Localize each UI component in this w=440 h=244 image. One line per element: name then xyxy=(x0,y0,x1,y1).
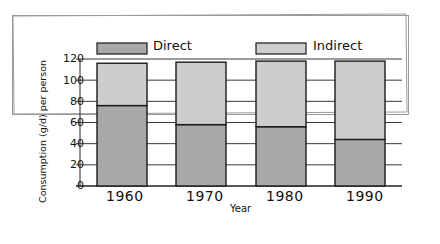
y-tick-120: 120 xyxy=(63,52,84,65)
bar-1980-direct xyxy=(256,127,306,186)
bar-1980-indirect xyxy=(256,61,306,127)
x-tick-1970: 1970 xyxy=(186,188,224,204)
bar-1960-indirect xyxy=(97,63,147,105)
legend-indirect-label: Indirect xyxy=(313,38,362,53)
legend-swatch-indirect xyxy=(256,43,306,54)
y-tick-40: 40 xyxy=(70,137,84,150)
bar-1970-direct xyxy=(176,125,226,186)
x-tick-1980: 1980 xyxy=(266,188,304,204)
y-tick-80: 80 xyxy=(70,95,84,108)
y-tick-60: 60 xyxy=(70,116,84,129)
bar-1990-indirect xyxy=(335,61,385,139)
bar-1970-indirect xyxy=(176,62,226,124)
x-tick-1990: 1990 xyxy=(346,188,384,204)
bar-1960-direct xyxy=(97,106,147,186)
x-tick-1960: 1960 xyxy=(106,188,144,204)
y-axis-title: Consumption (g/d) per person xyxy=(37,42,48,222)
y-tick-100: 100 xyxy=(63,74,84,87)
y-tick-20: 20 xyxy=(70,158,84,171)
x-axis-title: Year xyxy=(230,203,251,214)
bar-1990-direct xyxy=(335,139,385,186)
legend-swatch-direct xyxy=(97,43,147,54)
stacked-bar-chart xyxy=(0,0,440,244)
legend-direct-label: Direct xyxy=(153,38,192,53)
y-tick-0: 0 xyxy=(77,179,84,192)
